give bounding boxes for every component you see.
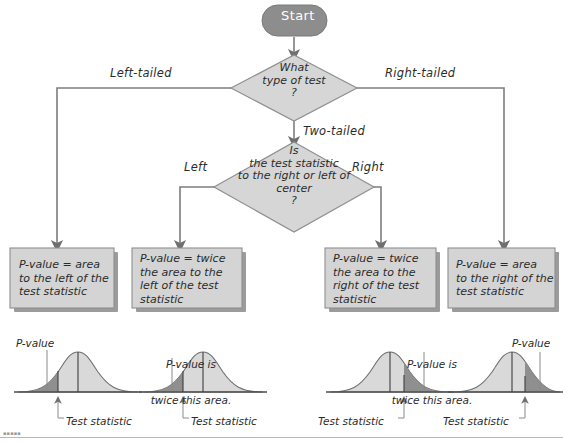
- start-label: Start: [268, 8, 328, 23]
- result-line: P-value = area: [456, 258, 554, 272]
- result-line: to the right of the: [456, 272, 554, 286]
- edge-label-left-tailed: Left-tailed: [110, 66, 172, 80]
- result-line: to the left of the: [19, 272, 111, 286]
- decision-line: ?: [244, 87, 344, 100]
- edge-label-left: Left: [184, 160, 207, 174]
- result-line: P-value = area: [19, 258, 111, 272]
- result-line: P-value = twice: [140, 252, 240, 266]
- result-line: statistic: [140, 293, 240, 307]
- result-line: the area to the: [333, 266, 434, 280]
- corner-watermark: ▪▪▪▪▪: [3, 430, 21, 436]
- result-line: P-value = twice: [333, 252, 434, 266]
- result-line: right of the test: [333, 279, 434, 293]
- result-box-two-tailed-right: P-value = twice the area to the right of…: [333, 252, 434, 306]
- edge-label-right-tailed: Right-tailed: [385, 66, 455, 80]
- result-line: test statistic: [456, 285, 554, 299]
- decision-line: Is: [214, 145, 374, 158]
- curve-pvalue-line: twice this area.: [374, 394, 490, 406]
- decision-line: ?: [214, 195, 374, 208]
- decision-line: to the right or left of: [214, 170, 374, 183]
- curve-pvalue-line: twice this area.: [133, 394, 249, 406]
- curve-pvalue-line: P-value is: [374, 358, 490, 370]
- result-line: statistic: [333, 293, 434, 307]
- curve-statistic-label: Test statistic: [443, 415, 509, 427]
- decision-statistic-side-label: Is the test statistic to the right or le…: [214, 145, 374, 208]
- result-line: test statistic: [19, 285, 111, 299]
- edge-statistic-left: [180, 187, 215, 246]
- footer-divider: [0, 437, 563, 438]
- curve-left-tailed: [14, 350, 142, 418]
- curve-pvalue-line: P-value is: [133, 358, 249, 370]
- result-box-right-tailed: P-value = area to the right of the test …: [456, 258, 554, 299]
- result-box-left-tailed: P-value = area to the left of the test s…: [19, 258, 111, 299]
- result-line: the area to the: [140, 266, 240, 280]
- curve-pvalue-label: P-value: [16, 337, 54, 349]
- curve-statistic-label: Test statistic: [191, 415, 257, 427]
- decision-line: What: [244, 62, 344, 75]
- result-line: left of the test: [140, 279, 240, 293]
- flowchart-canvas: Start What type of test ? Is the test st…: [0, 0, 563, 443]
- edge-label-two-tailed: Two-tailed: [303, 124, 365, 138]
- curve-statistic-label: Test statistic: [66, 415, 132, 427]
- decision-test-type-label: What type of test ?: [244, 62, 344, 100]
- curve-pvalue-label: P-value: [512, 337, 550, 349]
- curve-statistic-label: Test statistic: [318, 415, 384, 427]
- edge-statistic-right: [373, 187, 381, 246]
- result-box-two-tailed-left: P-value = twice the area to the left of …: [140, 252, 240, 306]
- edge-label-right: Right: [352, 160, 384, 174]
